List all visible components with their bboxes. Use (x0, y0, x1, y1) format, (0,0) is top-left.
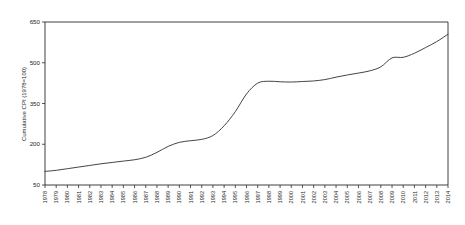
x-tick-label: 1979 (53, 191, 59, 203)
x-tick-label: 1982 (87, 191, 93, 203)
cpi-data-line (45, 34, 448, 171)
chart-container: Cumulative CPI (1978=100) 50200350500650… (0, 0, 465, 225)
x-tick-label: 1983 (98, 191, 104, 203)
x-tick-label: 1998 (266, 191, 272, 203)
x-tick-label: 1984 (109, 191, 115, 203)
x-tick-label: 2003 (322, 191, 328, 203)
x-tick-label: 2012 (423, 191, 429, 203)
y-axis-ticks: 50200350500650 (30, 18, 45, 188)
x-tick-label: 2000 (288, 191, 294, 203)
x-tick-label: 2009 (389, 191, 395, 203)
x-tick-label: 2001 (300, 191, 306, 203)
x-tick-label: 1981 (76, 191, 82, 203)
x-tick-label: 1999 (277, 191, 283, 203)
y-tick-label: 500 (30, 59, 41, 66)
x-tick-label: 1993 (210, 191, 216, 203)
x-tick-label: 1996 (244, 191, 250, 203)
x-tick-label: 2008 (378, 191, 384, 203)
x-tick-label: 2006 (356, 191, 362, 203)
y-tick-label: 200 (30, 140, 41, 147)
x-tick-label: 2002 (311, 191, 317, 203)
y-tick-label: 650 (30, 18, 41, 25)
y-tick-label: 350 (30, 100, 41, 107)
x-tick-label: 1978 (42, 191, 48, 203)
y-axis-label-text: Cumulative CPI (1978=100) (21, 67, 27, 141)
x-tick-label: 1995 (232, 191, 238, 203)
x-axis-ticks: 1978197919801981198219831984198519861987… (42, 185, 451, 203)
y-axis-label: Cumulative CPI (1978=100) (21, 67, 27, 141)
x-tick-label: 1986 (132, 191, 138, 203)
x-tick-label: 2004 (333, 191, 339, 203)
x-tick-label: 2010 (400, 191, 406, 203)
x-tick-label: 2011 (412, 191, 418, 203)
x-tick-label: 1987 (143, 191, 149, 203)
x-tick-label: 1992 (199, 191, 205, 203)
x-tick-label: 1985 (120, 191, 126, 203)
y-tick-label: 50 (33, 181, 40, 188)
plot-frame (45, 22, 448, 185)
x-tick-label: 1988 (154, 191, 160, 203)
x-tick-label: 1991 (188, 191, 194, 203)
x-tick-label: 1989 (165, 191, 171, 203)
x-tick-label: 1980 (64, 191, 70, 203)
x-tick-label: 2005 (344, 191, 350, 203)
x-tick-label: 1990 (176, 191, 182, 203)
cumulative-cpi-line-chart: Cumulative CPI (1978=100) 50200350500650… (0, 0, 465, 225)
x-tick-label: 1997 (255, 191, 261, 203)
x-tick-label: 2014 (445, 191, 451, 203)
x-tick-label: 2007 (367, 191, 373, 203)
x-tick-label: 2013 (434, 191, 440, 203)
x-tick-label: 1994 (221, 191, 227, 203)
